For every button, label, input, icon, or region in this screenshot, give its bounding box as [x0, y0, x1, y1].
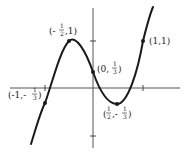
svg-text:3: 3 — [123, 113, 127, 120]
svg-text:2: 2 — [60, 30, 64, 37]
svg-text:3: 3 — [33, 94, 37, 101]
label-y-intercept: (0, 1 3 ) — [97, 60, 122, 75]
svg-text:1: 1 — [107, 105, 111, 112]
function-graph: (-1,- 1 3 ) (- 1 2 ,1) (0, 1 3 ) ( 1 2 ,… — [0, 0, 187, 156]
svg-text:1: 1 — [33, 86, 37, 93]
svg-text:2: 2 — [107, 113, 111, 120]
svg-text:): ) — [38, 90, 42, 100]
svg-text:,-: ,- — [112, 109, 118, 119]
point-y-intercept — [91, 70, 95, 74]
svg-text:(-: (- — [49, 26, 56, 36]
svg-text:1: 1 — [60, 22, 64, 29]
point-one — [141, 39, 145, 43]
svg-text:1: 1 — [113, 60, 117, 67]
label-local-max: (- 1 2 ,1) — [49, 22, 77, 37]
point-local-min — [115, 102, 119, 106]
svg-text:(0,: (0, — [97, 64, 109, 74]
svg-text:1: 1 — [123, 105, 127, 112]
svg-text:): ) — [118, 64, 122, 74]
label-one: (1,1) — [149, 36, 170, 46]
svg-text:,1): ,1) — [65, 26, 77, 36]
svg-text:(-1,-: (-1,- — [8, 90, 26, 100]
point-neg1 — [43, 101, 47, 105]
label-local-min: ( 1 2 ,- 1 3 ) — [103, 105, 132, 120]
svg-text:3: 3 — [113, 68, 117, 75]
svg-text:): ) — [128, 109, 132, 119]
point-local-max — [67, 39, 71, 43]
svg-text:(: ( — [103, 109, 107, 119]
